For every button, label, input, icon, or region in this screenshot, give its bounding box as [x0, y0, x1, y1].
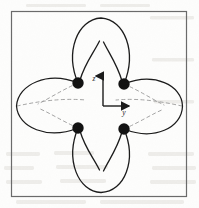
paper-background: [0, 0, 199, 208]
figure-drawing: z y: [0, 0, 199, 208]
figure-container: z y Four-lobed surface with four nodal p…: [0, 0, 199, 208]
node-bottom-left: [72, 122, 83, 133]
node-top-right: [118, 78, 129, 89]
axis-label-horizontal: y: [121, 108, 126, 117]
node-top-left: [72, 77, 83, 88]
node-bottom-right: [118, 123, 129, 134]
axis-label-vertical: z: [92, 74, 96, 83]
